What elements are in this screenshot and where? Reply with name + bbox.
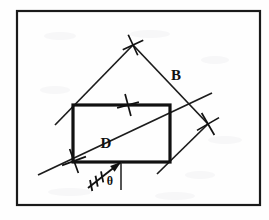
geometry-diagram: B D θ: [0, 0, 269, 220]
label-d: D: [101, 135, 112, 151]
figure-container: B D θ: [0, 0, 269, 220]
label-theta: θ: [107, 174, 113, 188]
label-b: B: [171, 67, 181, 83]
